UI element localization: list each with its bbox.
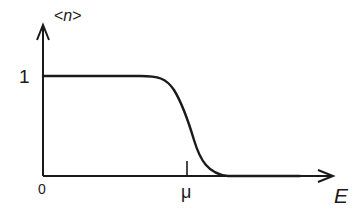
x-origin-label: 0 <box>38 181 46 197</box>
fermi-dirac-curve <box>43 76 300 176</box>
x-axis-label: E <box>334 184 349 207</box>
x-mu-label: μ <box>181 182 191 202</box>
y-axis-label-var: n <box>63 7 72 24</box>
y-axis-label-close: > <box>72 7 81 24</box>
fermi-dirac-plot: <n> 1 0 μ E <box>0 0 364 224</box>
y-tick-label-one: 1 <box>19 66 30 87</box>
y-axis-label-open: < <box>54 7 63 24</box>
y-axis-label: <n> <box>54 7 82 24</box>
